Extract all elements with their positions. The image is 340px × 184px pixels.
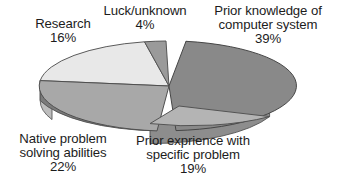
slice-value: 39%	[198, 32, 338, 46]
slice-value: 22%	[2, 160, 124, 174]
pie-slice-native-top	[39, 81, 169, 131]
slice-value: 16%	[20, 31, 106, 45]
slice-label-line: specific problem	[128, 148, 258, 162]
slice-label-line: Native problem	[2, 132, 124, 146]
slice-label-research: Research 16%	[20, 17, 106, 45]
slice-label-luck-unknown: Luck/unknown 4%	[98, 4, 192, 32]
slice-label-line: Research	[20, 17, 106, 31]
slice-label-line: solving abilities	[2, 146, 124, 160]
slice-label-line: Prior knowledge of	[198, 4, 338, 18]
slice-label-prior-knowledge: Prior knowledge of computer system 39%	[198, 4, 338, 47]
slice-label-line: computer system	[198, 18, 338, 32]
slice-label-line: Luck/unknown	[98, 4, 192, 18]
slice-value: 4%	[98, 18, 192, 32]
slice-label-native-problem-solving: Native problem solving abilities 22%	[2, 132, 124, 175]
slice-value: 19%	[128, 162, 258, 176]
slice-label-prior-experience: Prior exprience with specific problem 19…	[128, 134, 258, 177]
slice-label-line: Prior exprience with	[128, 134, 258, 148]
pie-chart-figure: Prior knowledge of computer system 39% L…	[0, 0, 340, 184]
